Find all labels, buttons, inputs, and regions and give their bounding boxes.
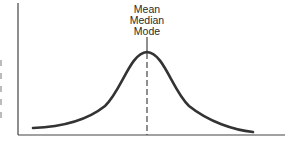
label-mode: Mode <box>107 26 187 37</box>
normal-curve <box>33 52 253 132</box>
